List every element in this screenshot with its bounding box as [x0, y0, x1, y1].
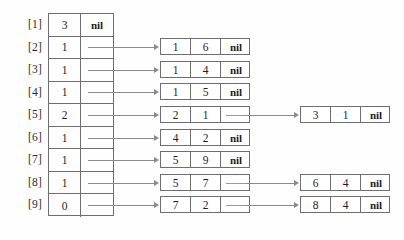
node-key-cell: 4 [161, 130, 191, 145]
chain-connector-1-0 [88, 47, 155, 48]
chain-connector-5-0 [88, 138, 155, 139]
node-next-cell: nil [221, 130, 251, 145]
node-key-cell: 1 [161, 84, 191, 99]
list-node-6-1: 59nil [160, 151, 250, 168]
slot-count-cell-1: 3 [49, 14, 81, 36]
node-key-cell: 5 [161, 152, 191, 167]
node-pointer-stub-4-1 [226, 115, 246, 116]
node-value-cell: 5 [191, 84, 221, 99]
node-value-cell: 6 [191, 39, 221, 54]
slot-count-cell-7: 1 [49, 149, 81, 171]
node-value-cell: 4 [331, 175, 361, 190]
list-node-5-1: 42nil [160, 129, 250, 146]
list-node-7-2: 64nil [300, 174, 390, 191]
node-value-cell: 1 [191, 107, 221, 122]
list-node-8-2: 84nil [300, 196, 390, 213]
slot-count-cell-3: 1 [49, 59, 81, 81]
node-next-cell: nil [361, 175, 391, 190]
slot-pointer-cell-1: nil [81, 14, 113, 36]
hash-table-row-1: 3nil [49, 14, 113, 37]
node-key-cell: 5 [161, 175, 191, 190]
chain-connector-4-0 [88, 115, 155, 116]
node-next-cell: nil [361, 107, 391, 122]
node-key-cell: 7 [161, 197, 191, 212]
slot-count-cell-5: 2 [49, 104, 81, 126]
chain-connector-5-0-arrowhead [154, 135, 159, 141]
slot-index-label-9: [9] [12, 198, 42, 211]
node-value-cell: 2 [191, 197, 221, 212]
slot-index-label-6: [6] [12, 131, 42, 144]
chain-connector-7-0 [88, 183, 155, 184]
node-key-cell: 1 [161, 39, 191, 54]
slot-index-label-2: [2] [12, 41, 42, 54]
chain-connector-2-0-arrowhead [154, 67, 159, 73]
chain-connector-4-1-arrowhead [294, 112, 299, 118]
node-next-cell: nil [221, 84, 251, 99]
chain-connector-1-0-arrowhead [154, 44, 159, 50]
slot-count-cell-9: 0 [49, 194, 81, 217]
chain-connector-4-0-arrowhead [154, 112, 159, 118]
chain-connector-3-0 [88, 92, 155, 93]
chain-connector-7-1-arrowhead [294, 180, 299, 186]
node-key-cell: 2 [161, 107, 191, 122]
node-value-cell: 7 [191, 175, 221, 190]
node-key-cell: 6 [301, 175, 331, 190]
node-key-cell: 1 [161, 62, 191, 77]
slot-index-label-8: [8] [12, 176, 42, 189]
node-key-cell: 3 [301, 107, 331, 122]
slot-count-cell-4: 1 [49, 82, 81, 104]
list-node-2-1: 14nil [160, 61, 250, 78]
chain-connector-2-0 [88, 70, 155, 71]
slot-count-cell-8: 1 [49, 172, 81, 194]
node-key-cell: 8 [301, 197, 331, 212]
node-next-cell: nil [221, 62, 251, 77]
node-value-cell: 4 [191, 62, 221, 77]
slot-index-label-4: [4] [12, 86, 42, 99]
node-value-cell: 1 [331, 107, 361, 122]
list-node-1-1: 16nil [160, 38, 250, 55]
slot-count-cell-6: 1 [49, 127, 81, 149]
node-pointer-stub-8-1 [226, 205, 246, 206]
chain-connector-8-0 [88, 205, 155, 206]
list-node-4-2: 31nil [300, 106, 390, 123]
node-next-cell: nil [221, 152, 251, 167]
chain-connector-8-1-arrowhead [294, 202, 299, 208]
chain-connector-8-0-arrowhead [154, 202, 159, 208]
node-value-cell: 4 [331, 197, 361, 212]
slot-index-label-7: [7] [12, 153, 42, 166]
slot-index-label-3: [3] [12, 63, 42, 76]
slot-index-label-1: [1] [12, 18, 42, 31]
node-value-cell: 9 [191, 152, 221, 167]
node-value-cell: 2 [191, 130, 221, 145]
chain-connector-7-0-arrowhead [154, 180, 159, 186]
chain-connector-7-1 [246, 183, 295, 184]
node-next-cell: nil [361, 197, 391, 212]
chain-connector-6-0 [88, 160, 155, 161]
chain-connector-3-0-arrowhead [154, 89, 159, 95]
slot-count-cell-2: 1 [49, 37, 81, 59]
node-pointer-stub-7-1 [226, 183, 246, 184]
list-node-3-1: 15nil [160, 83, 250, 100]
node-next-cell: nil [221, 39, 251, 54]
chain-connector-4-1 [246, 115, 295, 116]
slot-index-label-5: [5] [12, 108, 42, 121]
chain-connector-6-0-arrowhead [154, 157, 159, 163]
diagram-canvas: [1][2][3][4][5][6][7][8][9]3nil111211101… [0, 0, 404, 240]
chain-connector-8-1 [246, 205, 295, 206]
